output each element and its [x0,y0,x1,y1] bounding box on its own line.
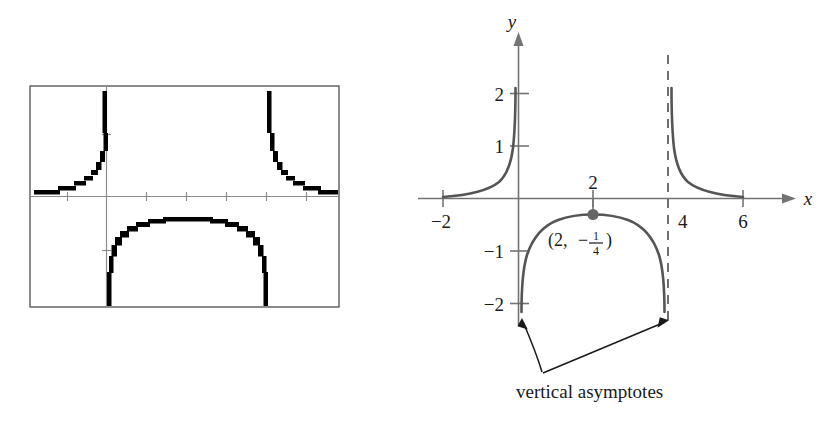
calculator-graph-panel [0,0,380,435]
x-tick-label-6: 6 [738,211,748,232]
point-label-fraction-denominator: 4 [593,244,599,258]
x-tick-label-minus2: −2 [431,211,451,232]
point-label-group: (2, − 1 4 ) [548,229,612,258]
annotation-arrow-straight [543,322,665,373]
y-axis-label: y [506,11,517,32]
y-tick-label-2: 2 [495,84,505,105]
vertical-asymptotes-caption: vertical asymptotes [516,381,663,402]
x-axis-label: x [803,188,813,209]
curve-right-branch [672,88,744,197]
annotation-arrow-curved [523,322,542,372]
annotated-graph-panel: y x −2 2 4 6 2 1 −1 −2 (2, − 1 4 ) verti… [400,0,832,435]
y-tick-label-1: 1 [495,136,505,157]
x-tick-label-4: 4 [678,211,688,232]
point-marker-2-minus-quarter [587,209,598,220]
y-axis-arrowhead [514,32,524,46]
point-label-close: ) [606,230,612,251]
point-label-fraction-numerator: 1 [593,229,599,243]
point-label-minus: − [578,230,588,250]
annotated-graph-svg: y x −2 2 4 6 2 1 −1 −2 (2, − 1 4 ) verti… [400,0,832,435]
x-tick-label-2: 2 [588,172,598,193]
curve-left-branch [443,88,516,197]
x-axis-arrowhead [782,194,796,204]
point-label-open: (2, [548,230,568,251]
y-tick-label-minus1: −1 [484,241,504,262]
figure-canvas: y x −2 2 4 6 2 1 −1 −2 (2, − 1 4 ) verti… [0,0,832,435]
calculator-graph-svg [0,0,380,435]
y-tick-label-minus2: −2 [484,294,504,315]
